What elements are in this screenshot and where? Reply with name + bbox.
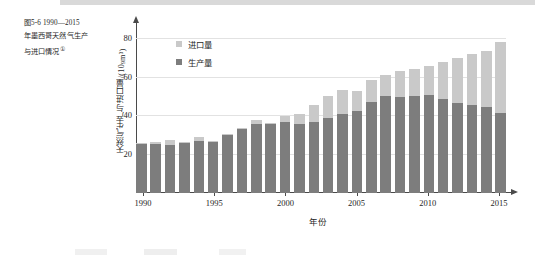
bar-segment-production-2001 (294, 124, 305, 193)
bar-segment-production-1994 (194, 141, 205, 193)
bar-segment-import-2006 (366, 80, 377, 102)
bar-segment-import-2012 (452, 58, 463, 104)
legend-label-import: 进口量 (188, 38, 212, 50)
bar-2007[interactable] (380, 28, 391, 193)
legend-item-production: 生产量 (176, 56, 212, 68)
bar-segment-production-2007 (380, 96, 391, 193)
bar-segment-import-2010 (424, 66, 435, 95)
bar-2000[interactable] (280, 28, 291, 193)
x-tick-label-2000: 2000 (277, 198, 294, 208)
bar-segment-production-2006 (366, 102, 377, 193)
bar-2013[interactable] (467, 28, 478, 193)
bar-segment-production-1997 (237, 129, 248, 193)
caption-line-1: 图5-6 1990—2015 (24, 17, 102, 30)
bar-segment-import-2014 (481, 51, 492, 107)
bar-segment-production-2003 (323, 118, 334, 194)
bar-2014[interactable] (481, 28, 492, 193)
caption-line-3-text: 与进口情况 (24, 48, 60, 56)
bar-segment-production-1999 (265, 124, 276, 193)
bar-segment-import-2004 (337, 90, 348, 114)
legend-item-import: 进口量 (176, 38, 212, 50)
bar-2012[interactable] (452, 28, 463, 193)
figure-caption: 图5-6 1990—2015 年墨西哥天然气生产 与进口情况① (24, 17, 102, 59)
y-tick-label-80: 80 (124, 33, 133, 43)
bar-2001[interactable] (294, 28, 305, 193)
bar-segment-production-1992 (165, 145, 176, 193)
y-tick-label-60: 60 (124, 72, 133, 82)
caption-line-3: 与进口情况① (24, 44, 102, 60)
bar-segment-production-1998 (251, 124, 262, 193)
bar-2002[interactable] (309, 28, 320, 193)
bar-1997[interactable] (237, 28, 248, 193)
bar-segment-import-2005 (352, 91, 363, 111)
bar-segment-import-2009 (409, 69, 420, 96)
scan-edge-bottom (0, 249, 535, 255)
bar-2015[interactable] (495, 28, 506, 193)
x-axis-title: 年份 (118, 215, 518, 227)
bar-chart: 天然气生产与进口量/(109m³) 20406080 1990199520002… (118, 14, 518, 229)
bar-segment-production-2013 (467, 105, 478, 193)
bar-segment-import-2011 (438, 62, 449, 99)
x-tick-1990 (143, 193, 144, 196)
y-axis-title-exponent: 9 (119, 61, 126, 64)
x-tick-label-2015: 2015 (490, 198, 507, 208)
bar-2003[interactable] (323, 28, 334, 193)
bar-2006[interactable] (366, 28, 377, 193)
bar-segment-import-2015 (495, 42, 506, 113)
legend-swatch-import-icon (176, 41, 182, 47)
legend-swatch-production-icon (176, 59, 182, 65)
bar-1999[interactable] (265, 28, 276, 193)
x-tick-2015 (499, 193, 500, 196)
bar-segment-production-2004 (337, 114, 348, 193)
y-tick-label-40: 40 (124, 110, 133, 120)
bar-segment-production-2015 (495, 113, 506, 193)
bar-segment-import-2000 (280, 116, 291, 123)
bar-segment-import-2003 (323, 96, 334, 118)
bar-1990[interactable] (136, 28, 147, 193)
x-tick-label-1995: 1995 (206, 198, 223, 208)
bar-1991[interactable] (150, 28, 161, 193)
bar-segment-production-1995 (208, 142, 219, 193)
bar-2005[interactable] (352, 28, 363, 193)
scan-edge-top (60, 0, 535, 5)
x-tick-2000 (285, 193, 286, 196)
bar-segment-production-2002 (309, 122, 320, 193)
bar-2010[interactable] (424, 28, 435, 193)
x-tick-label-2010: 2010 (419, 198, 436, 208)
bar-2011[interactable] (438, 28, 449, 193)
bar-1998[interactable] (251, 28, 262, 193)
bar-segment-production-2011 (438, 99, 449, 193)
bar-segment-production-2010 (424, 95, 435, 193)
bar-segment-production-2012 (452, 103, 463, 193)
bar-segment-production-1990 (136, 144, 147, 193)
bar-2004[interactable] (337, 28, 348, 193)
y-axis-title-tail: m³) (118, 49, 127, 61)
bar-segment-production-2009 (409, 96, 420, 193)
caption-footnote-marker: ① (60, 46, 65, 52)
bar-1996[interactable] (222, 28, 233, 193)
legend-label-production: 生产量 (188, 56, 212, 68)
x-tick-label-2005: 2005 (348, 198, 365, 208)
bar-segment-production-1993 (179, 143, 190, 193)
chart-legend: 进口量 生产量 (176, 38, 212, 74)
bar-segment-import-2013 (467, 54, 478, 105)
x-tick-1995 (214, 193, 215, 196)
bar-segment-production-2008 (395, 97, 406, 193)
bar-2009[interactable] (409, 28, 420, 193)
bar-segment-production-2000 (280, 122, 291, 193)
bar-segment-production-2005 (352, 111, 363, 193)
bar-segment-production-2014 (481, 107, 492, 193)
bar-1992[interactable] (165, 28, 176, 193)
x-tick-label-1990: 1990 (135, 198, 152, 208)
x-tick-2005 (357, 193, 358, 196)
bar-segment-import-2002 (309, 105, 320, 122)
bar-2008[interactable] (395, 28, 406, 193)
bar-segment-import-2007 (380, 75, 391, 96)
bar-segment-import-2008 (395, 71, 406, 97)
bar-segment-production-1991 (150, 144, 161, 193)
caption-line-2: 年墨西哥天然气生产 (24, 30, 102, 43)
bar-segment-production-1996 (222, 135, 233, 193)
x-tick-2010 (428, 193, 429, 196)
y-tick-label-20: 20 (124, 149, 133, 159)
bar-segment-import-2001 (294, 114, 305, 123)
